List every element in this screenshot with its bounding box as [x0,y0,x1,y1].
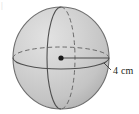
radius-label: 4 cm [113,66,134,76]
sphere-figure: | 4 cm [0,0,139,114]
center-point-dot [58,55,63,60]
sphere-illustration [0,0,139,114]
